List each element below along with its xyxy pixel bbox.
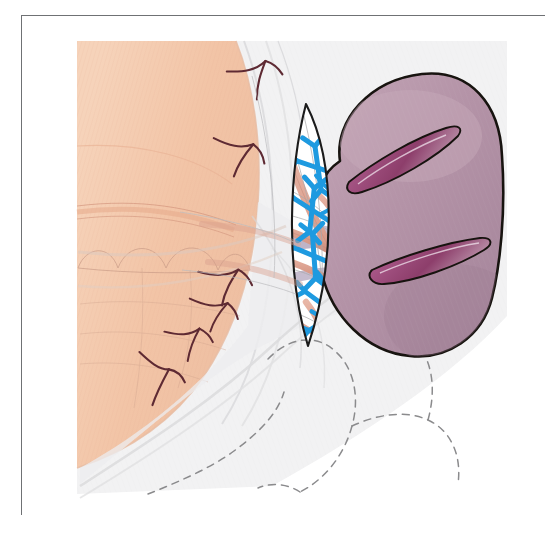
scan-grain-overlay — [22, 16, 546, 516]
figure-caption — [30, 521, 490, 535]
illustration-canvas — [22, 16, 546, 516]
anatomical-illustration — [22, 16, 546, 516]
illustration-svg — [22, 16, 546, 516]
figure-frame — [21, 15, 545, 515]
figure-page — [0, 0, 560, 537]
